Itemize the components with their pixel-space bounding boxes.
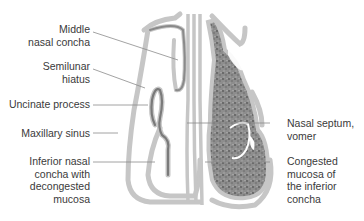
leader-middle-concha — [93, 32, 178, 60]
label-line: decongested — [29, 180, 90, 193]
label-line: mucosa — [29, 193, 90, 206]
label-maxillary-sinus: Maxillary sinus — [21, 127, 90, 140]
label-semilunar-hiatus: Semilunar hiatus — [43, 60, 90, 85]
label-nasal-septum: Nasal septum, vomer — [287, 117, 354, 142]
nasal-cavity-diagram: Middle nasal concha Semilunar hiatus Unc… — [0, 0, 364, 221]
label-line: hiatus — [43, 73, 90, 86]
middle-nasal-concha-left — [150, 26, 185, 90]
nasal-septum — [187, 14, 202, 205]
label-line: Congested — [287, 155, 338, 168]
label-congested-mucosa: Congested mucosa of the inferior concha — [287, 155, 338, 205]
label-line: Middle — [28, 23, 90, 36]
label-line: concha — [287, 193, 338, 206]
label-line: Semilunar — [43, 60, 90, 73]
label-line: vomer — [287, 130, 354, 143]
label-line: the inferior — [287, 180, 338, 193]
label-line: mucosa of — [287, 168, 338, 181]
label-line: Inferior nasal — [29, 155, 90, 168]
label-line: concha with — [29, 168, 90, 181]
label-middle-nasal-concha: Middle nasal concha — [28, 23, 90, 48]
label-line: Uncinate process — [9, 98, 90, 111]
label-line: Nasal septum, — [287, 117, 354, 130]
label-line: Maxillary sinus — [21, 127, 90, 140]
label-inferior-nasal-concha: Inferior nasal concha with decongested m… — [29, 155, 90, 205]
leader-semilunar-hiatus — [93, 69, 145, 88]
label-uncinate-process: Uncinate process — [9, 98, 90, 111]
label-line: nasal concha — [28, 36, 90, 49]
